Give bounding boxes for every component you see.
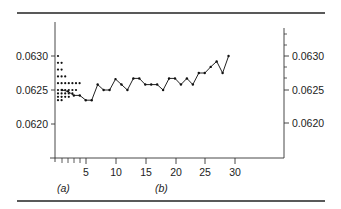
right-y-axis: 0.0630 0.0625 0.0620 [284, 28, 324, 158]
left-tick-0620: 0.0620 [16, 118, 48, 130]
line-series-panel-b [61, 55, 230, 102]
left-y-axis: 0.0630 0.0625 0.0620 [16, 22, 55, 162]
right-tick-0620: 0.0620 [292, 117, 324, 129]
right-tick-0630: 0.0630 [292, 50, 324, 62]
panel-label-b: (b) [155, 182, 168, 194]
chart-figure: 0.0630 0.0625 0.0620 5 10 15 20 25 30 0.… [0, 0, 341, 209]
panel-label-a: (a) [57, 182, 70, 194]
dot-plot-panel-a [57, 55, 81, 101]
right-tick-0625: 0.0625 [292, 84, 324, 96]
left-tick-0625: 0.0625 [16, 84, 48, 96]
x-tick-10: 10 [110, 166, 122, 178]
x-tick-5: 5 [83, 166, 89, 178]
left-tick-0630: 0.0630 [16, 50, 48, 62]
x-axis: 5 10 15 20 25 30 [50, 158, 284, 178]
x-tick-30: 30 [229, 166, 241, 178]
x-tick-25: 25 [199, 166, 211, 178]
x-tick-20: 20 [170, 166, 182, 178]
x-tick-15: 15 [140, 166, 152, 178]
